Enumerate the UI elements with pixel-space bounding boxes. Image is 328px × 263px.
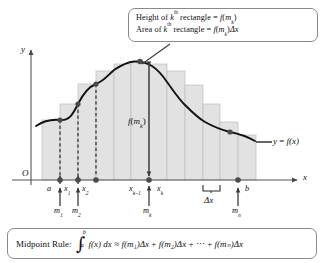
- delta-x-brace: [203, 185, 220, 193]
- th-superscript: th: [174, 9, 178, 15]
- tick-label-x1: x1: [64, 184, 70, 193]
- callout-leader-line: [142, 44, 170, 64]
- th-superscript-2: th: [167, 21, 171, 27]
- midpoint-label-mn: mn: [232, 206, 241, 215]
- midpoint-label-mk: mk: [143, 206, 152, 215]
- callout-box-midpoint-rule: Midpoint Rule: ∫ b a f(x) dx ≈ f(m₁)Δx +…: [7, 228, 317, 259]
- term-n: f(mₙ)Δx: [215, 239, 243, 249]
- integrand: f(x) dx: [89, 239, 112, 249]
- y-axis-label: y: [21, 44, 25, 54]
- rule-name: Midpoint Rule:: [16, 239, 72, 249]
- midpoint-label-m2: m2: [72, 206, 81, 215]
- callout-line-area: Area of kth rectangle = f(mk)Δx: [136, 24, 311, 36]
- term-2: f(m₂)Δx: [159, 239, 187, 249]
- approx-sign: ≈: [114, 239, 119, 249]
- callout-line-height: Height of kth rectangle = f(mk): [136, 12, 311, 24]
- x-axis-label: x: [303, 172, 307, 182]
- tick-label-xk-1: xk–1: [129, 184, 141, 193]
- curve-label: y = f(x): [273, 136, 299, 146]
- callout-box-top: Height of kth rectangle = f(mk) Area of …: [128, 8, 318, 42]
- midpoint-rule-formula: Midpoint Rule: ∫ b a f(x) dx ≈ f(m₁)Δx +…: [16, 239, 243, 249]
- figure-canvas: Height of kth rectangle = f(mk) Area of …: [0, 0, 328, 263]
- tick-label-b: b: [245, 184, 249, 193]
- tick-label-a: a: [47, 184, 51, 193]
- ellipsis: ⋯: [196, 239, 205, 249]
- midpoint-label-m1: m1: [54, 206, 63, 215]
- delta-x-symbol: Δx: [230, 25, 239, 34]
- tick-label-xk: xk: [157, 184, 163, 193]
- origin-label: O: [22, 168, 29, 178]
- delta-x-label: Δx: [204, 195, 213, 205]
- term-1: f(m₁)Δx: [121, 239, 149, 249]
- tick-label-x2: x2: [82, 184, 88, 193]
- height-label-fmk: f(mk): [128, 116, 146, 126]
